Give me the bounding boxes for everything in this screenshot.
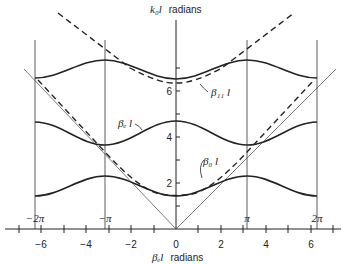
x-tick-label: 2 <box>218 239 224 250</box>
dispersion-diagram: −6 −4 −2 0 2 4 6 2 4 6 −2π −π π 2π β₁₁ l… <box>0 0 346 264</box>
pi-label: −2π <box>26 212 45 224</box>
x-tick-label: 0 <box>173 239 179 250</box>
y-tick-label: 6 <box>166 86 172 97</box>
x-tick-label: 4 <box>263 239 269 250</box>
x-axis-symbol: βₑl <box>151 251 163 263</box>
x-tick-label: −2 <box>125 239 137 250</box>
y-axis-label: k₀l radians <box>150 0 202 16</box>
x-tick-label: 6 <box>308 239 314 250</box>
pi-label: π <box>244 212 250 224</box>
pi-label: 2π <box>311 212 323 224</box>
y-axis-symbol: k₀l <box>150 3 162 15</box>
x-tick-label: −6 <box>35 239 47 250</box>
y-axis-unit: radians <box>169 4 202 15</box>
y-tick-label: 4 <box>166 132 172 143</box>
beta11-leader <box>200 84 208 92</box>
pi-label: −π <box>99 212 112 224</box>
x-axis-unit: radians <box>170 252 203 263</box>
beta0-label: β₀ l <box>202 155 218 167</box>
y-tick-label: 2 <box>166 178 172 189</box>
light-lines <box>24 69 336 229</box>
betae-label: βₑ l <box>117 117 132 129</box>
x-tick-label: −4 <box>80 239 92 250</box>
beta11-label: β₁₁ l <box>210 86 230 98</box>
betae-leader <box>135 124 142 130</box>
y-ticks <box>176 68 180 206</box>
